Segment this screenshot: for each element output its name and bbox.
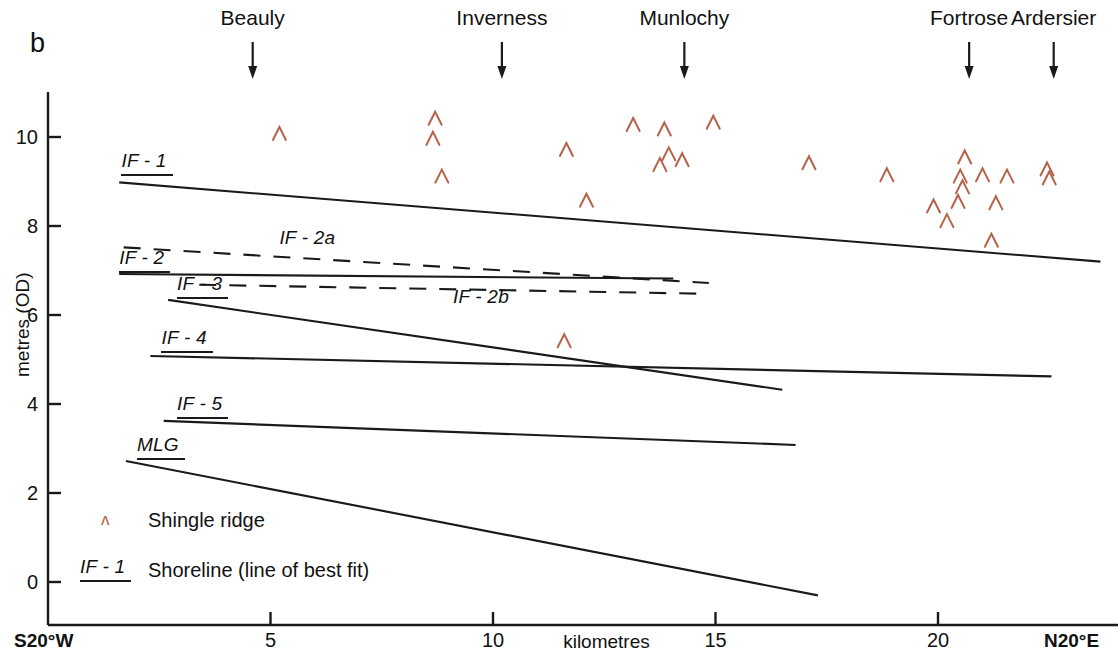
location-label-inverness: Inverness [456,6,547,30]
shingle-ridge-marker [627,118,640,131]
shingle-ridge-markers [273,112,1056,348]
down-arrow-icon [680,42,689,79]
y-tick-label: 4 [0,393,38,416]
location-label-fortrose: Fortrose [930,6,1008,30]
x-tick-label: 5 [265,629,276,652]
shoreline-label-if1: IF - 1 [121,150,172,176]
shoreline-label-if4: IF - 4 [161,327,212,353]
location-label-munlochy: Munlochy [639,6,729,30]
legend-shoreline-key: IF - 1 [80,556,131,582]
down-arrow-icon [248,42,257,79]
shingle-ridge-marker [558,334,571,347]
shoreline-label-if5: IF - 5 [177,393,228,419]
shoreline-if4 [150,356,1051,376]
shingle-ridge-marker [1041,163,1054,176]
shingle-ridge-marker [952,195,965,208]
shingle-ridge-marker [985,234,998,247]
shingle-ridge-marker [958,151,971,164]
shoreline-if1 [119,182,1100,261]
shoreline-label-if2b: IF - 2b [453,286,509,308]
y-tick-label: 2 [0,482,38,505]
shoreline-label-if2: IF - 2 [119,247,170,273]
shoreline-lines [119,182,1100,595]
y-tick-label: 10 [0,126,38,149]
down-arrow-icon [497,42,506,79]
location-arrows [248,42,1058,79]
x-axis-title: kilometres [563,631,650,653]
shoreline-label-mlg: MLG [137,434,185,460]
shingle-ridge-marker [989,196,1002,209]
shingle-ridge-marker [662,147,675,160]
shingle-ridge-marker [273,127,286,140]
x-tick-label: 15 [704,629,726,652]
shoreline-if3 [168,300,782,390]
shingle-ridge-marker [802,156,815,169]
shingle-ridge-marker [426,132,439,145]
shingle-ridge-marker [560,143,573,156]
location-label-ardersier: Ardersier [1011,6,1096,30]
shingle-ridge-marker [880,168,893,181]
x-tick-label: 10 [482,629,504,652]
shingle-ridge-marker [707,116,720,129]
x-tick-label: 20 [927,629,949,652]
shingle-ridge-marker [653,158,666,171]
shoreline-label-if3: IF - 3 [177,273,228,299]
y-axis-title: metres (OD) [12,273,34,378]
y-tick-label: 8 [0,215,38,238]
down-arrow-icon [1049,42,1058,79]
x-axis-end-label: N20°E [1044,630,1099,652]
shingle-ridge-marker [580,194,593,207]
shingle-ridge-marker [976,168,989,181]
shingle-ridge-marker [940,214,953,227]
shingle-ridge-marker [1043,171,1056,184]
shoreline-if2b [199,285,697,294]
shoreline-if5 [164,421,796,445]
shingle-ridge-marker [676,153,689,166]
legend-shingle-label: Shingle ridge [148,509,265,532]
y-tick-label: 0 [0,571,38,594]
axis-lines [48,92,1118,625]
shoreline-label-if2a: IF - 2a [279,227,335,249]
shingle-ridge-marker [1000,170,1013,183]
shingle-ridge-marker [927,199,940,212]
shingle-ridge-marker [954,170,967,183]
location-label-beauly: Beauly [221,6,285,30]
legend-shoreline-label: Shoreline (line of best fit) [148,559,369,582]
shingle-ridge-marker [658,122,671,135]
legend-shingle-marker-icon: ʌ [101,510,110,530]
shoreline-diagram-figure: b BeaulyInvernessMunlochyFortroseArdersi… [0,0,1118,655]
shingle-ridge-marker [429,112,442,125]
shingle-ridge-marker [435,170,448,183]
x-axis-start-label: S20°W [14,630,73,652]
down-arrow-icon [965,42,974,79]
